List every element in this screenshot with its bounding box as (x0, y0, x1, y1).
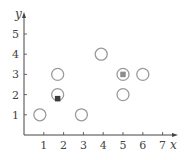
y-tick-label: 2 (12, 89, 19, 102)
square-marker (55, 96, 61, 102)
ticks: 123456712345 (12, 28, 166, 152)
x-axis-label: x (170, 138, 177, 152)
x-tick-label: 5 (120, 139, 127, 152)
circle-marker (52, 68, 64, 80)
circle-marker (117, 89, 129, 101)
circle-marker (95, 48, 107, 60)
y-axis-label: y (14, 7, 22, 21)
data-points (34, 48, 149, 121)
y-tick-label: 1 (12, 109, 19, 122)
x-axis-arrow-icon (172, 133, 178, 137)
y-tick-label: 3 (12, 68, 19, 81)
circle-marker (34, 109, 46, 121)
y-tick-label: 4 (12, 48, 19, 61)
x-tick-label: 7 (159, 139, 166, 152)
x-tick-label: 3 (80, 139, 87, 152)
y-tick-label: 5 (12, 28, 19, 41)
circle-marker (75, 109, 87, 121)
scatter-chart: 123456712345 x y (0, 0, 187, 160)
circle-marker (137, 68, 149, 80)
x-tick-label: 4 (100, 139, 107, 152)
x-tick-label: 2 (60, 139, 67, 152)
square-marker (120, 72, 126, 78)
y-axis-arrow-icon (22, 12, 26, 18)
x-tick-label: 6 (139, 139, 146, 152)
x-tick-label: 1 (40, 139, 47, 152)
